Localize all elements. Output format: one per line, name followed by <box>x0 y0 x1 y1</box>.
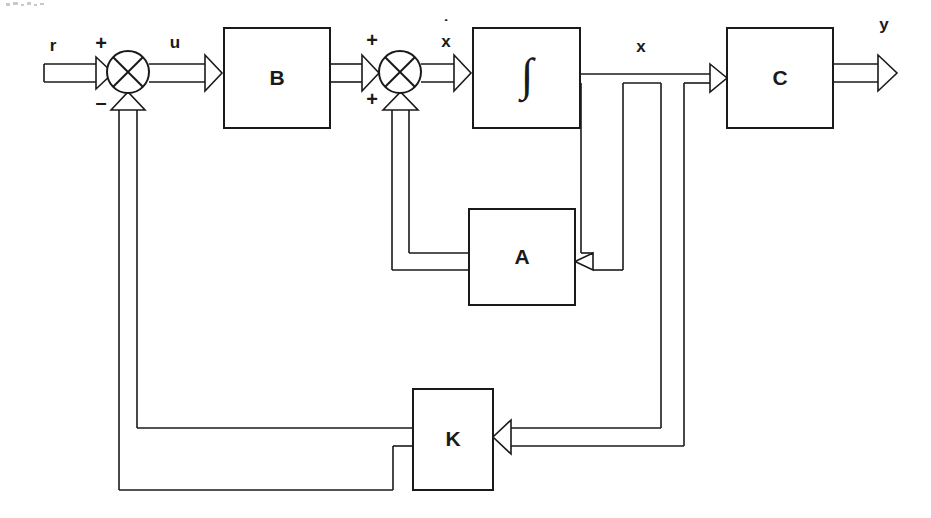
control-system-diagram: B ∫ C A K r u ˙ x x y + – + <box>0 0 931 518</box>
signal-label-r: r <box>50 36 57 55</box>
block-C-label: C <box>772 66 787 89</box>
signal-label-u: u <box>170 33 180 52</box>
sign-label-sum2-plus-top: + <box>366 29 378 51</box>
wire-B-to-sum2 <box>330 55 379 91</box>
wire-K-to-sum1 <box>111 92 413 490</box>
signal-label-y: y <box>879 15 889 34</box>
block-K-label: K <box>445 427 460 450</box>
sign-label-sum2-plus-bottom: + <box>366 88 378 110</box>
wire-r-to-sum1 <box>44 57 113 89</box>
block-B-label: B <box>269 66 284 89</box>
signal-label-x: x <box>636 37 646 56</box>
wire-A-to-sum2 <box>383 92 469 270</box>
wire-sum2-to-integrator <box>421 55 471 91</box>
summing-junction-2[interactable] <box>379 51 421 93</box>
sign-label-sum1-minus: – <box>95 91 106 113</box>
wire-C-to-y <box>833 55 897 91</box>
block-A[interactable]: A <box>469 209 575 305</box>
signal-label-xdot: ˙ x <box>441 16 451 51</box>
integrator-symbol: ∫ <box>518 49 536 103</box>
block-diagram-canvas: B ∫ C A K r u ˙ x x y + – + <box>0 0 931 518</box>
block-B[interactable]: B <box>224 28 330 128</box>
wire-x-to-A <box>575 83 623 270</box>
block-A-label: A <box>514 245 529 268</box>
block-K[interactable]: K <box>413 389 493 490</box>
scan-artifacts <box>6 2 44 6</box>
xdot-base: x <box>441 32 451 51</box>
block-C[interactable]: C <box>727 28 833 128</box>
summing-junction-1[interactable] <box>107 51 149 93</box>
wire-sum1-to-B <box>149 55 222 91</box>
sign-label-sum1-plus: + <box>95 32 107 54</box>
block-integrator[interactable]: ∫ <box>473 28 580 128</box>
wire-integrator-to-C <box>580 64 727 92</box>
